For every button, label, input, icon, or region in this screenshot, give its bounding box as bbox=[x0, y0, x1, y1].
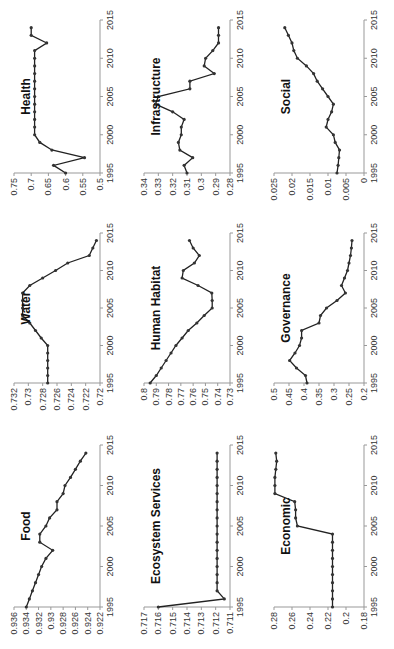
data-point bbox=[305, 64, 308, 67]
data-point bbox=[69, 476, 72, 479]
x-tick-label: 2005 bbox=[105, 298, 115, 318]
data-point bbox=[182, 269, 185, 272]
data-point bbox=[203, 64, 206, 67]
data-point bbox=[213, 72, 216, 75]
x-tick-label: 1995 bbox=[369, 373, 379, 393]
y-tick-label: 0.75 bbox=[200, 388, 210, 406]
chart-title: Water bbox=[19, 291, 33, 324]
data-point bbox=[288, 359, 291, 362]
y-tick-label: 0.22 bbox=[323, 612, 333, 630]
x-tick-label: 2000 bbox=[105, 125, 115, 145]
x-tick-label: 2000 bbox=[369, 556, 379, 576]
y-tick-label: 0.025 bbox=[269, 178, 279, 201]
data-point bbox=[216, 492, 219, 495]
data-point bbox=[331, 549, 334, 552]
y-tick-label: 0.5 bbox=[269, 388, 279, 401]
data-point bbox=[33, 64, 36, 67]
x-tick-label: 2015 bbox=[105, 10, 115, 30]
data-point bbox=[283, 26, 286, 29]
data-point bbox=[343, 276, 346, 279]
data-point bbox=[55, 508, 58, 511]
x-tick-label: 2015 bbox=[105, 223, 115, 243]
y-tick-label: 0.35 bbox=[314, 388, 324, 406]
data-point bbox=[48, 516, 51, 519]
data-point bbox=[33, 87, 36, 90]
x-tick-label: 2015 bbox=[235, 10, 245, 30]
data-point bbox=[84, 452, 87, 455]
data-point bbox=[198, 254, 201, 257]
data-point bbox=[216, 565, 219, 568]
data-point bbox=[216, 589, 219, 592]
data-point bbox=[337, 156, 340, 159]
y-tick-label: 0.77 bbox=[176, 388, 186, 406]
data-point bbox=[33, 57, 36, 60]
x-tick-label: 2015 bbox=[235, 223, 245, 243]
data-point bbox=[273, 492, 276, 495]
data-point bbox=[304, 374, 307, 377]
y-tick-label: 0.33 bbox=[153, 178, 163, 196]
data-point bbox=[216, 508, 219, 511]
y-tick-label: 0.4 bbox=[299, 388, 309, 401]
data-point bbox=[183, 118, 186, 121]
y-tick-label: 0.924 bbox=[83, 612, 93, 635]
data-point bbox=[349, 254, 352, 257]
y-tick-label: 0.01 bbox=[323, 178, 333, 196]
x-tick-label: 2010 bbox=[369, 48, 379, 68]
y-tick-label: 0.716 bbox=[153, 612, 163, 635]
chart-title: Social bbox=[279, 79, 293, 114]
data-point bbox=[187, 329, 190, 332]
data-point bbox=[274, 452, 277, 455]
data-point bbox=[216, 573, 219, 576]
data-point bbox=[338, 148, 341, 151]
data-point bbox=[188, 239, 191, 242]
y-tick-label: 0.715 bbox=[168, 612, 178, 635]
y-tick-label: 0.726 bbox=[52, 388, 62, 411]
data-point bbox=[210, 291, 213, 294]
y-tick-label: 0.72 bbox=[95, 388, 105, 406]
x-tick-label: 2010 bbox=[235, 260, 245, 280]
x-tick-label: 2010 bbox=[369, 475, 379, 495]
data-point bbox=[157, 605, 160, 608]
x-tick-label: 2010 bbox=[105, 48, 115, 68]
data-point bbox=[273, 476, 276, 479]
x-tick-label: 2000 bbox=[235, 556, 245, 576]
data-point bbox=[217, 26, 220, 29]
data-point bbox=[46, 351, 49, 354]
y-tick-label: 0.29 bbox=[211, 178, 221, 196]
data-point bbox=[180, 336, 183, 339]
data-point bbox=[54, 269, 57, 272]
chart-title: Food bbox=[19, 511, 33, 540]
data-point bbox=[46, 374, 49, 377]
x-tick-label: 2010 bbox=[105, 475, 115, 495]
data-point bbox=[332, 133, 335, 136]
x-tick-label: 2015 bbox=[235, 435, 245, 455]
data-point bbox=[52, 164, 55, 167]
data-point bbox=[30, 34, 33, 37]
data-point bbox=[149, 381, 152, 384]
y-tick-label: 0.015 bbox=[305, 178, 315, 201]
data-point bbox=[180, 126, 183, 129]
data-point bbox=[335, 299, 338, 302]
data-point bbox=[28, 597, 31, 600]
data-point bbox=[326, 118, 329, 121]
y-tick-label: 0.8 bbox=[139, 388, 149, 401]
data-point bbox=[335, 171, 338, 174]
chart-panel-infrastructure: 0.280.290.30.310.320.330.341995200020052… bbox=[130, 0, 260, 215]
data-point bbox=[296, 57, 299, 60]
data-point bbox=[295, 366, 298, 369]
data-point bbox=[40, 565, 43, 568]
data-point bbox=[38, 141, 41, 144]
series-line bbox=[290, 241, 352, 384]
y-tick-label: 0.714 bbox=[182, 612, 192, 635]
data-point bbox=[30, 26, 33, 29]
data-point bbox=[95, 239, 98, 242]
data-point bbox=[177, 141, 180, 144]
data-point bbox=[347, 261, 350, 264]
x-tick-label: 2000 bbox=[369, 125, 379, 145]
data-point bbox=[38, 541, 41, 544]
data-point bbox=[216, 541, 219, 544]
x-tick-label: 1995 bbox=[105, 373, 115, 393]
data-point bbox=[64, 171, 67, 174]
data-point bbox=[46, 359, 49, 362]
data-point bbox=[290, 41, 293, 44]
